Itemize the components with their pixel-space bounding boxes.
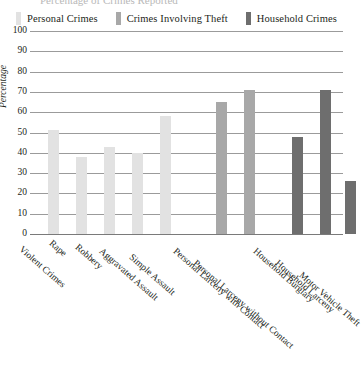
- legend-item: Household Crimes: [246, 12, 337, 25]
- clipped-title-text: Percentage of Crimes Reported: [40, 0, 358, 6]
- chart-legend: Personal CrimesCrimes Involving TheftHou…: [0, 8, 358, 28]
- gridline: [30, 234, 343, 235]
- legend-swatch-icon: [246, 12, 251, 25]
- x-axis-category-labels: Violent CrimesRapeRobberyAggravated Assa…: [30, 236, 343, 356]
- y-axis-tick-label: 40: [18, 148, 28, 158]
- bar: [160, 116, 171, 234]
- bar: [76, 157, 87, 234]
- legend-item-label: Personal Crimes: [27, 13, 98, 24]
- y-axis-tick-labels: 0102030405060708090100: [0, 31, 30, 234]
- y-axis-tick-label: 70: [18, 87, 28, 97]
- y-axis-tick-label: 100: [13, 26, 27, 36]
- bar: [104, 147, 115, 234]
- bar: [345, 181, 356, 234]
- legend-item-label: Crimes Involving Theft: [127, 13, 228, 24]
- y-axis-tick-label: 80: [18, 67, 28, 77]
- x-axis-category-label: Household Larceny: [273, 258, 336, 315]
- y-axis-tick-label: 20: [18, 189, 28, 199]
- clipped-title: Percentage of Crimes Reported: [0, 0, 358, 7]
- y-axis-tick-label: 10: [18, 209, 28, 219]
- bar: [244, 90, 255, 234]
- legend-item: Crimes Involving Theft: [116, 12, 228, 25]
- plot-area: [30, 31, 343, 234]
- y-axis-tick-label: 0: [22, 229, 27, 239]
- legend-item: Personal Crimes: [16, 12, 98, 25]
- y-axis-tick-label: 90: [18, 47, 28, 57]
- bar: [48, 130, 59, 234]
- bar-series-container: [30, 31, 343, 234]
- y-axis-title: Percentage: [0, 65, 8, 108]
- legend-item-label: Household Crimes: [257, 13, 337, 24]
- x-axis-category-label: Rape: [47, 238, 68, 258]
- bar: [132, 153, 143, 234]
- bar: [216, 102, 227, 234]
- legend-swatch-icon: [16, 12, 21, 25]
- bar: [320, 90, 331, 234]
- legend-swatch-icon: [116, 12, 121, 25]
- y-axis-tick-label: 30: [18, 168, 28, 178]
- bar: [292, 137, 303, 234]
- y-axis-tick-label: 60: [18, 107, 28, 117]
- y-axis-tick-label: 50: [18, 128, 28, 138]
